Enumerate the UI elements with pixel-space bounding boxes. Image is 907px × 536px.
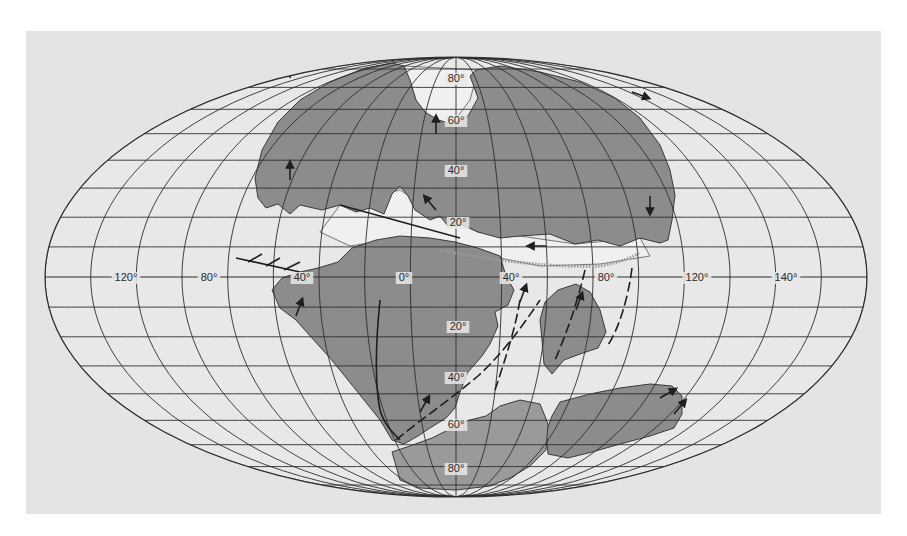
latitude-label: 80°: [448, 462, 465, 474]
longitude-label: 140°: [775, 271, 798, 283]
longitude-label: 120°: [115, 271, 138, 283]
latitude-label: 60°: [448, 114, 465, 126]
longitude-label: 80°: [201, 271, 218, 283]
latitude-label: 20°: [450, 216, 467, 228]
longitude-label: 40°: [503, 271, 520, 283]
longitude-label: 80°: [598, 271, 615, 283]
latitude-label: 60°: [448, 418, 465, 430]
longitude-label: 0°: [399, 271, 410, 283]
longitude-label: 120°: [686, 271, 709, 283]
latitude-label: 40°: [448, 371, 465, 383]
world-map: 120°80°40°0°40°80°120°140°80°60°40°20°20…: [0, 0, 907, 536]
latitude-label: 40°: [448, 164, 465, 176]
latitude-label: 80°: [448, 72, 465, 84]
latitude-label: 20°: [450, 320, 467, 332]
longitude-label: 40°: [294, 271, 311, 283]
